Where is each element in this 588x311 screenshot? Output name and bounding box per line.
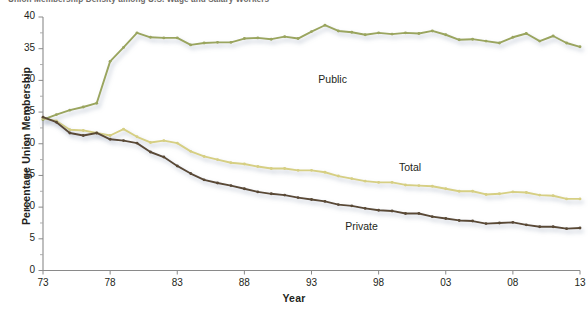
data-point xyxy=(162,139,165,142)
data-point xyxy=(498,42,501,45)
data-point xyxy=(297,196,300,199)
data-point xyxy=(203,178,206,181)
data-point xyxy=(538,194,541,197)
data-point xyxy=(552,225,555,228)
y-tick-label: 15 xyxy=(9,168,35,179)
data-point xyxy=(579,197,582,200)
data-point xyxy=(337,29,340,32)
data-point xyxy=(538,40,541,43)
y-tick-label: 5 xyxy=(9,232,35,243)
data-point xyxy=(149,151,152,154)
data-point xyxy=(525,32,528,35)
data-point xyxy=(176,36,179,39)
data-point xyxy=(216,182,219,185)
data-point xyxy=(485,40,488,43)
data-point xyxy=(297,169,300,172)
data-point xyxy=(162,156,165,159)
data-point xyxy=(552,194,555,197)
data-point xyxy=(270,167,273,170)
data-point xyxy=(417,184,420,187)
data-point xyxy=(82,134,85,137)
data-point xyxy=(565,197,568,200)
data-point xyxy=(498,222,501,225)
data-point xyxy=(337,203,340,206)
data-point xyxy=(162,36,165,39)
data-point xyxy=(189,150,192,153)
data-point xyxy=(109,134,112,137)
data-point xyxy=(243,187,246,190)
data-point xyxy=(149,36,152,39)
x-tick-label: 08 xyxy=(498,277,528,288)
data-point xyxy=(471,38,474,41)
data-point xyxy=(565,42,568,45)
data-point xyxy=(283,35,286,38)
plot-area xyxy=(0,0,588,311)
data-point xyxy=(283,194,286,197)
data-point xyxy=(458,38,461,41)
series-label-private: Private xyxy=(345,220,378,232)
data-point xyxy=(377,181,380,184)
data-point xyxy=(270,192,273,195)
data-point xyxy=(136,142,139,145)
data-point xyxy=(310,169,313,172)
x-tick-label: 83 xyxy=(162,277,192,288)
y-tick-label: 25 xyxy=(9,105,35,116)
data-point xyxy=(136,135,139,138)
data-point xyxy=(538,225,541,228)
x-tick-label: 13 xyxy=(565,277,588,288)
data-point xyxy=(68,128,71,131)
data-point xyxy=(216,41,219,44)
data-point xyxy=(310,30,313,33)
x-tick-label: 78 xyxy=(95,277,125,288)
data-point xyxy=(109,138,112,141)
x-tick-label: 03 xyxy=(431,277,461,288)
data-point xyxy=(565,227,568,230)
series-label-total: Total xyxy=(399,161,421,173)
data-point xyxy=(216,158,219,161)
series-line xyxy=(43,25,580,119)
data-point xyxy=(511,190,514,193)
data-point xyxy=(444,217,447,220)
data-point xyxy=(189,172,192,175)
data-point xyxy=(391,33,394,36)
series-public xyxy=(42,24,582,121)
data-point xyxy=(283,167,286,170)
data-point xyxy=(55,121,58,124)
data-point xyxy=(310,198,313,201)
data-point xyxy=(485,193,488,196)
data-point xyxy=(579,227,582,230)
data-point xyxy=(122,139,125,142)
data-point xyxy=(82,106,85,109)
data-point xyxy=(68,109,71,112)
x-tick-label: 73 xyxy=(28,277,58,288)
data-point xyxy=(55,113,58,116)
data-point xyxy=(498,192,501,195)
data-point xyxy=(243,163,246,166)
data-point xyxy=(122,46,125,49)
data-point xyxy=(189,43,192,46)
data-point xyxy=(417,212,420,215)
data-point xyxy=(579,45,582,48)
series-private xyxy=(42,116,582,230)
data-point xyxy=(431,185,434,188)
series-label-public: Public xyxy=(318,73,347,85)
axes-layer xyxy=(39,17,581,275)
data-point xyxy=(149,141,152,144)
data-point xyxy=(525,191,528,194)
data-point xyxy=(364,180,367,183)
data-point xyxy=(377,31,380,34)
data-point xyxy=(458,190,461,193)
data-point xyxy=(95,132,98,135)
data-point xyxy=(471,190,474,193)
data-point xyxy=(323,24,326,27)
data-point xyxy=(364,33,367,36)
y-tick-label: 35 xyxy=(9,42,35,53)
data-point xyxy=(256,165,259,168)
data-point xyxy=(95,102,98,105)
data-point xyxy=(350,31,353,34)
data-point xyxy=(364,207,367,210)
data-point xyxy=(337,175,340,178)
data-point xyxy=(471,220,474,223)
x-tick-label: 88 xyxy=(229,277,259,288)
data-point xyxy=(431,215,434,218)
